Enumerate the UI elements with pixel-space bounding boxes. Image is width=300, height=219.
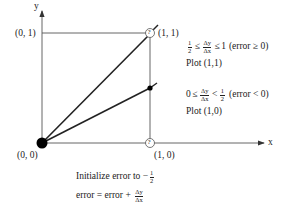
update-statement: error = error + ΔyΔx (76, 189, 145, 203)
fraction-dy-dx: ΔyΔx (203, 40, 211, 54)
line-slope-one (42, 36, 148, 143)
origin-dot (37, 138, 48, 149)
condition-1-error: (error ≥ 0) (229, 42, 269, 52)
init-statement: Initialize error to − 12 (76, 170, 155, 184)
point-label-1-1: (1, 1) (158, 29, 179, 39)
condition-1-action: Plot (1,1) (186, 59, 222, 69)
condition-2-inequality: 0 ≤ ΔyΔx < 12 (error < 0) (186, 88, 269, 102)
condition-2-action: Plot (1,0) (186, 107, 222, 117)
condition-2-error: (error < 0) (229, 90, 269, 100)
fraction-dy-dx: ΔyΔx (200, 88, 208, 102)
fraction-dy-dx: ΔyΔx (135, 189, 143, 203)
point-label-0-0: (0, 0) (17, 151, 38, 161)
point-label-0-1: (0, 1) (15, 29, 36, 39)
fraction-one-half: 12 (220, 88, 224, 102)
question-mark-1-1: ? (148, 29, 151, 36)
condition-1-inequality: 12 ≤ ΔyΔx ≤ 1 (error ≥ 0) (186, 40, 268, 54)
fraction-one-half: 12 (188, 40, 192, 54)
question-mark-1-0: ? (148, 139, 151, 146)
fraction-one-half: 12 (150, 170, 154, 184)
y-axis-label: y (34, 2, 39, 12)
line-slope-half (42, 88, 150, 143)
midpoint-dot (147, 85, 152, 90)
x-axis-label: x (268, 138, 273, 148)
point-label-1-0: (1, 0) (154, 151, 175, 161)
